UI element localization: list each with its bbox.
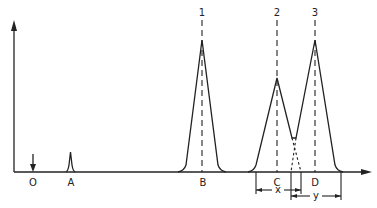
peak-a <box>66 152 75 172</box>
peak-2-3-envelope <box>248 40 343 172</box>
label-peak-1: 1 <box>199 7 205 18</box>
label-width-x: x <box>275 184 281 195</box>
bracket-y-arrow-right-icon <box>335 194 341 198</box>
label-a: A <box>68 177 75 188</box>
label-peak-2: 2 <box>274 7 280 18</box>
label-o: O <box>29 177 37 188</box>
label-d: D <box>311 177 319 188</box>
x-axis-arrow-icon <box>361 169 372 175</box>
bracket-y-arrow-left-icon <box>291 194 297 198</box>
chromatogram-diagram: O A B C D 1 2 3 x y <box>0 0 377 208</box>
label-peak-3: 3 <box>312 7 318 18</box>
bracket-x-arrow-right-icon <box>295 188 301 192</box>
y-axis-arrow-icon <box>11 20 17 31</box>
injection-arrow-icon <box>30 164 36 172</box>
label-width-y: y <box>313 190 319 201</box>
bracket-x-arrow-left-icon <box>256 188 262 192</box>
label-b: B <box>200 177 207 188</box>
